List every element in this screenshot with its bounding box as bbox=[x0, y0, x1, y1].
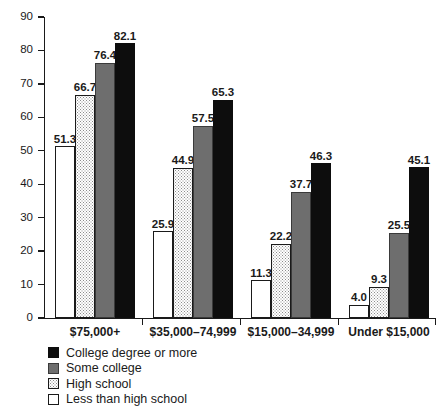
bar[interactable]: 11.3 bbox=[251, 280, 271, 318]
bar-group: 4.09.325.545.1 bbox=[349, 17, 429, 318]
bar[interactable]: 37.7 bbox=[291, 192, 311, 318]
bar-value-label: 44.9 bbox=[172, 155, 194, 167]
bar-value-label: 57.5 bbox=[192, 113, 214, 125]
bar[interactable]: 66.7 bbox=[75, 95, 95, 318]
bar-group: 11.322.237.746.3 bbox=[251, 17, 331, 318]
bar-value-label: 25.9 bbox=[152, 219, 174, 231]
x-axis-tick bbox=[240, 319, 241, 325]
bar-value-label: 25.5 bbox=[388, 220, 410, 232]
legend-swatch-icon bbox=[48, 347, 59, 358]
bar[interactable]: 46.3 bbox=[311, 163, 331, 318]
bar[interactable]: 4.0 bbox=[349, 305, 369, 318]
bar[interactable]: 51.3 bbox=[55, 146, 75, 318]
bar-value-label: 76.4 bbox=[94, 50, 116, 62]
bar-value-label: 65.3 bbox=[212, 87, 234, 99]
x-axis-tick bbox=[435, 319, 436, 325]
x-axis-category-label: $15,000–34,999 bbox=[248, 326, 335, 338]
bar-value-label: 4.0 bbox=[351, 292, 367, 304]
bar-value-label: 66.7 bbox=[74, 82, 96, 94]
legend-item[interactable]: College degree or more bbox=[48, 345, 197, 361]
x-axis-tick bbox=[142, 319, 143, 325]
chart-legend: College degree or moreSome collegeHigh s… bbox=[48, 345, 197, 407]
plot-area: 51.366.776.482.125.944.957.565.311.322.2… bbox=[44, 17, 436, 318]
y-axis-tick-label: 20 bbox=[20, 245, 33, 257]
bar[interactable]: 22.2 bbox=[271, 244, 291, 318]
legend-item[interactable]: High school bbox=[48, 376, 197, 392]
y-axis-tick-label: 10 bbox=[20, 279, 33, 291]
bar[interactable]: 82.1 bbox=[115, 43, 135, 318]
y-axis-tick-label: 40 bbox=[20, 178, 33, 190]
legend-item[interactable]: Less than high school bbox=[48, 392, 197, 408]
x-axis-tick bbox=[338, 319, 339, 325]
legend-swatch-icon bbox=[48, 394, 59, 405]
legend-swatch-icon bbox=[48, 378, 59, 389]
bar-value-label: 11.3 bbox=[250, 268, 272, 280]
legend-swatch-icon bbox=[48, 363, 59, 374]
legend-label: College degree or more bbox=[66, 347, 197, 360]
bar-group: 25.944.957.565.3 bbox=[153, 17, 233, 318]
bar-value-label: 46.3 bbox=[310, 151, 332, 163]
y-axis-tick-label: 80 bbox=[20, 45, 33, 57]
bar[interactable]: 65.3 bbox=[213, 100, 233, 318]
legend-item[interactable]: Some college bbox=[48, 361, 197, 377]
bar[interactable]: 44.9 bbox=[173, 168, 193, 318]
y-axis-tick-label: 70 bbox=[20, 78, 33, 90]
x-axis-category-label: $75,000+ bbox=[70, 326, 120, 338]
legend-label: Some college bbox=[66, 362, 142, 375]
bar[interactable]: 25.9 bbox=[153, 231, 173, 318]
bar-value-label: 82.1 bbox=[114, 31, 136, 43]
bar-value-label: 37.7 bbox=[290, 179, 312, 191]
legend-label: Less than high school bbox=[66, 393, 187, 406]
bar[interactable]: 76.4 bbox=[95, 63, 115, 319]
bar-value-label: 9.3 bbox=[371, 274, 387, 286]
bar-value-label: 51.3 bbox=[54, 134, 76, 146]
legend-label: High school bbox=[66, 378, 131, 391]
y-axis-tick-label: 30 bbox=[20, 212, 33, 224]
bar-group: 51.366.776.482.1 bbox=[55, 17, 135, 318]
y-axis-tick-label: 0 bbox=[27, 312, 33, 324]
y-axis-tick-label: 60 bbox=[20, 112, 33, 124]
bar[interactable]: 45.1 bbox=[409, 167, 429, 318]
y-axis-tick-label: 90 bbox=[20, 11, 33, 23]
bar-value-label: 22.2 bbox=[270, 231, 292, 243]
bar-chart: 0102030405060708090 51.366.776.482.125.9… bbox=[0, 0, 444, 417]
x-axis-category-label: $35,000–74,999 bbox=[150, 326, 237, 338]
bar-value-label: 45.1 bbox=[408, 155, 430, 167]
bar[interactable]: 25.5 bbox=[389, 233, 409, 318]
bar[interactable]: 57.5 bbox=[193, 126, 213, 318]
bar[interactable]: 9.3 bbox=[369, 287, 389, 318]
y-axis-tick-label: 50 bbox=[20, 145, 33, 157]
x-axis-category-label: Under $15,000 bbox=[348, 326, 429, 338]
